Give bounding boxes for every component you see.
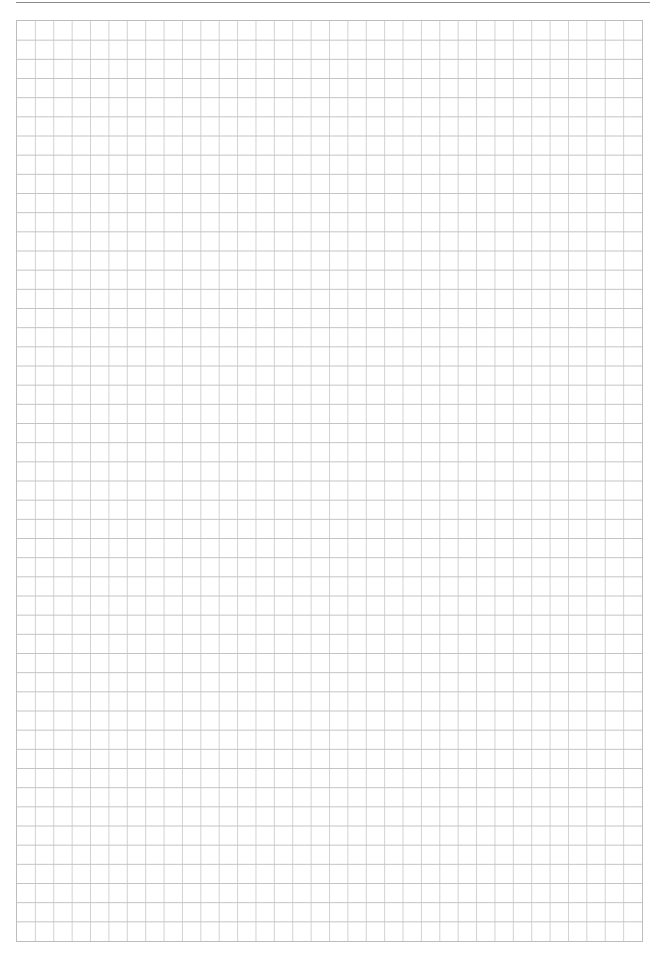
running-header-rule xyxy=(16,2,650,3)
grid-lines xyxy=(17,21,642,941)
graph-paper-grid xyxy=(16,20,643,942)
